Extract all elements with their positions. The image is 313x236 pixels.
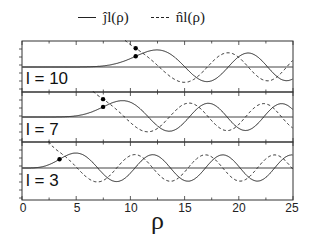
x-tick-25: 25 — [285, 201, 298, 215]
curve-j-hat — [23, 153, 293, 182]
curve-j-hat — [23, 101, 293, 132]
legend-item-n: n̂l(ρ) — [151, 9, 205, 26]
panel-label-l7: l = 7 — [26, 120, 59, 140]
curve-n-hat — [93, 91, 293, 132]
dashed-line-swatch — [151, 17, 169, 18]
legend-label-n: n̂l(ρ) — [176, 9, 205, 26]
turning-point-marker-n — [134, 46, 138, 50]
legend-label-j: ĵl(ρ) — [103, 9, 129, 26]
panel-label-l3: l = 3 — [26, 171, 59, 191]
solid-line-swatch — [78, 17, 96, 18]
panel-label-l10: l = 10 — [26, 69, 68, 89]
x-axis-label: ρ — [151, 206, 164, 236]
x-tick-20: 20 — [232, 201, 245, 215]
curve-n-hat — [125, 40, 293, 82]
panel-frame — [22, 142, 293, 200]
curve-n-hat — [49, 141, 293, 182]
legend-item-j: ĵl(ρ) — [78, 9, 129, 26]
plot-area — [0, 0, 313, 236]
x-tick-5: 5 — [74, 201, 81, 215]
turning-point-marker-n — [101, 97, 105, 101]
x-tick-10: 10 — [124, 201, 137, 215]
legend: ĵl(ρ) n̂l(ρ) — [78, 4, 221, 30]
turning-point-marker-j — [134, 54, 138, 58]
turning-point-marker-j — [101, 105, 105, 109]
x-tick-15: 15 — [178, 201, 191, 215]
turning-point-marker-j — [57, 157, 61, 161]
x-tick-0: 0 — [20, 201, 27, 215]
